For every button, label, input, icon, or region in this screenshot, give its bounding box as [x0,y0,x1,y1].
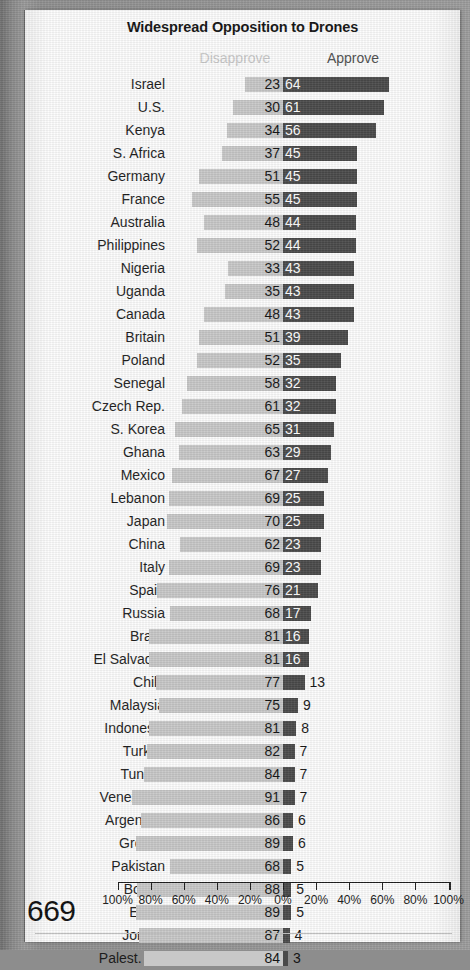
approve-bar [283,698,298,713]
disapprove-value: 62 [219,536,280,553]
axis-tick [250,882,251,890]
approve-value: 43 [285,283,301,300]
approve-value: 61 [285,99,301,116]
row-plot: 8116 [25,648,460,671]
disapprove-value: 52 [219,237,280,254]
axis-tick [415,882,416,890]
disapprove-value: 37 [219,145,280,162]
axis-tick-label: 20% [304,893,328,907]
disapprove-value: 77 [219,674,280,691]
table-row: Greece896 [25,832,460,855]
disapprove-value: 51 [219,168,280,185]
table-row: U.S.3061 [25,96,460,119]
approve-value: 31 [285,421,301,438]
row-plot: 6132 [25,395,460,418]
row-plot: 3343 [25,257,460,280]
table-row: Philippines5244 [25,234,460,257]
table-row: Ghana6329 [25,441,460,464]
table-row: Argentina866 [25,809,460,832]
table-row: Tunisia847 [25,763,460,786]
row-plot: 4844 [25,211,460,234]
axis-tick-label: 60% [172,893,196,907]
row-plot: 6923 [25,556,460,579]
axis-tick [151,882,152,890]
approve-value: 45 [285,145,301,162]
approve-value: 23 [285,536,301,553]
approve-value: 9 [303,697,311,714]
disapprove-value: 34 [219,122,280,139]
approve-bar [283,767,295,782]
disapprove-value: 67 [219,467,280,484]
row-plot: 847 [25,763,460,786]
row-plot: 896 [25,832,460,855]
axis-tick-label: 80% [139,893,163,907]
approve-bar [283,721,296,736]
disapprove-value: 23 [219,76,280,93]
row-plot: 827 [25,740,460,763]
table-row: Poland5235 [25,349,460,372]
disapprove-value: 48 [219,214,280,231]
table-row: China6223 [25,533,460,556]
row-plot: 874 [25,924,460,947]
chart-title: Widespread Opposition to Drones [25,19,460,35]
approve-value: 25 [285,490,301,507]
approve-bar [283,790,295,805]
approve-value: 25 [285,513,301,530]
row-plot: 6329 [25,441,460,464]
disapprove-value: 30 [219,99,280,116]
disapprove-value: 55 [219,191,280,208]
disapprove-value: 84 [219,950,280,967]
table-row: Israel2364 [25,73,460,96]
table-row: Pakistan685 [25,855,460,878]
table-row: Germany5145 [25,165,460,188]
row-plot: 843 [25,947,460,970]
printed-page: Widespread Opposition to Drones Disappro… [25,10,460,942]
axis-tick-label: 80% [403,893,427,907]
disapprove-value: 68 [219,858,280,875]
disapprove-value: 70 [219,513,280,530]
axis-tick [382,882,383,890]
axis-tick-label: 100% [433,893,464,907]
axis-tick-label: 40% [205,893,229,907]
row-plot: 5139 [25,326,460,349]
approve-value: 43 [285,260,301,277]
row-plot: 6531 [25,418,460,441]
table-row: El Salvador8116 [25,648,460,671]
approve-value: 45 [285,168,301,185]
disapprove-value: 82 [219,743,280,760]
table-row: Chile7713 [25,671,460,694]
row-plot: 6925 [25,487,460,510]
axis-tick [449,882,450,890]
approve-value: 7 [300,766,308,783]
approve-bar [283,859,291,874]
row-plot: 6727 [25,464,460,487]
approve-value: 21 [285,582,301,599]
table-row: Jordan874 [25,924,460,947]
table-row: Italy6923 [25,556,460,579]
approve-value: 32 [285,375,301,392]
row-plot: 5235 [25,349,460,372]
disapprove-value: 68 [219,605,280,622]
row-plot: 7713 [25,671,460,694]
table-row: Canada4843 [25,303,460,326]
disapprove-value: 81 [219,720,280,737]
row-plot: 3745 [25,142,460,165]
table-row: Senegal5832 [25,372,460,395]
approve-bar [283,813,293,828]
approve-value: 44 [285,214,301,231]
approve-value: 8 [301,720,309,737]
disapprove-value: 65 [219,421,280,438]
row-plot: 4843 [25,303,460,326]
page-number: 669 [27,894,76,928]
approve-value: 64 [285,76,301,93]
approve-bar [283,836,293,851]
axis-tick [184,882,185,890]
approve-value: 43 [285,306,301,323]
row-plot: 818 [25,717,460,740]
table-row: Venezuela917 [25,786,460,809]
x-axis: 100%80%60%40%20%0%20%40%60%80%100% [25,882,460,914]
row-plot: 685 [25,855,460,878]
approve-value: 27 [285,467,301,484]
axis-tick-label: 100% [102,893,133,907]
axis-tick-label: 20% [238,893,262,907]
